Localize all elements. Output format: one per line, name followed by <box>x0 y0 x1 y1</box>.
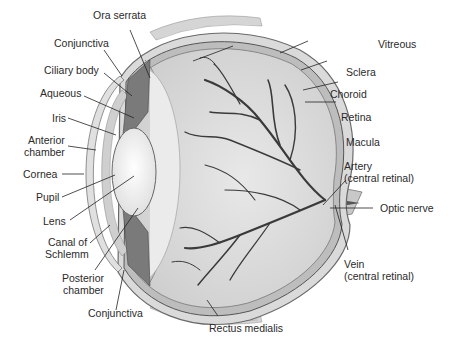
label-ciliary-body: Ciliary body <box>44 64 99 76</box>
label-artery-1: Artery <box>344 160 372 172</box>
label-posterior-chamber-1: Posterior <box>62 272 104 284</box>
label-lens: Lens <box>43 215 66 227</box>
label-iris: Iris <box>52 112 66 124</box>
label-vein-1: Vein <box>344 258 364 270</box>
label-canal-of-schlemm-1: Canal of <box>48 236 87 248</box>
label-conjunctiva-bottom: Conjunctiva <box>88 307 143 319</box>
label-artery-2: (central retinal) <box>344 172 414 184</box>
label-conjunctiva-top: Conjunctiva <box>54 37 109 49</box>
label-anterior-chamber-2: chamber <box>24 146 65 158</box>
label-cornea: Cornea <box>23 168 57 180</box>
label-retina: Retina <box>341 111 371 123</box>
label-macula: Macula <box>346 136 380 148</box>
label-optic-nerve: Optic nerve <box>380 202 434 214</box>
lens <box>112 128 156 216</box>
label-vitreous: Vitreous <box>378 38 416 50</box>
label-anterior-chamber-1: Anterior <box>28 134 65 146</box>
label-posterior-chamber-2: chamber <box>63 284 104 296</box>
eye-anatomy-diagram: Ora serrata Conjunctiva Ciliary body Aqu… <box>0 0 455 355</box>
label-rectus-medialis: Rectus medialis <box>209 322 283 334</box>
label-choroid: Choroid <box>330 88 367 100</box>
label-canal-of-schlemm-2: Schlemm <box>45 248 89 260</box>
label-aqueous: Aqueous <box>40 87 81 99</box>
label-ora-serrata: Ora serrata <box>93 9 146 21</box>
label-sclera: Sclera <box>346 66 376 78</box>
label-vein-2: (central retinal) <box>344 270 414 282</box>
label-pupil: Pupil <box>36 191 59 203</box>
